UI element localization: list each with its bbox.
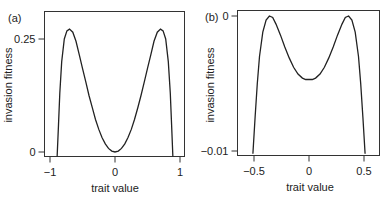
panel-label-a: (a) (8, 12, 21, 24)
x-tick-label: 0 (306, 165, 312, 177)
x-axis-label-b: trait value (286, 181, 334, 193)
y-axis-label-a: invasion fitness (2, 47, 14, 123)
x-tick-label: 0 (112, 166, 118, 178)
x-axis-a: −101 (44, 157, 183, 178)
plot-area-b (238, 11, 380, 156)
x-tick-label: 0.5 (356, 165, 371, 177)
y-axis-a: 00.25 (14, 33, 44, 158)
panel-a: (a) 00.25 −101 trait value invasion fitn… (0, 0, 196, 199)
fitness-curve-b (253, 16, 365, 154)
x-axis-label-a: trait value (91, 182, 139, 194)
panel-label-b: (b) (205, 11, 218, 23)
chart-b-svg: (b) −0.010 −0.500.5 trait value invasion… (196, 0, 392, 199)
y-tick-label: 0 (222, 10, 228, 22)
x-tick-label: −1 (44, 166, 57, 178)
x-axis-b: −0.500.5 (243, 156, 372, 177)
chart-a-svg: (a) 00.25 −101 trait value invasion fitn… (0, 0, 196, 199)
y-tick-label: 0.25 (14, 33, 35, 45)
fitness-curve-a (57, 29, 173, 157)
x-tick-label: −0.5 (243, 165, 265, 177)
y-tick-label: −0.01 (201, 145, 229, 157)
panel-b: (b) −0.010 −0.500.5 trait value invasion… (196, 0, 392, 199)
x-tick-label: 1 (177, 166, 183, 178)
y-tick-label: 0 (29, 146, 35, 158)
y-axis-label-b: invasion fitness (204, 47, 216, 123)
